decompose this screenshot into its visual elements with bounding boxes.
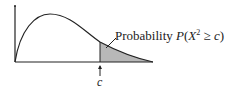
arrow-head-icon — [98, 65, 102, 69]
prob-close: ) — [220, 28, 224, 43]
prob-p: P — [176, 28, 184, 43]
shaded-tail-region — [100, 42, 153, 62]
critical-value-label: c — [97, 75, 102, 90]
chi-square-chart — [0, 0, 230, 91]
prob-prefix: Probability — [115, 28, 176, 43]
prob-ge: ≥ — [200, 28, 214, 43]
probability-annotation: Probability P(X2 ≥ c) — [115, 28, 224, 44]
y-axis-tip — [14, 5, 16, 7]
